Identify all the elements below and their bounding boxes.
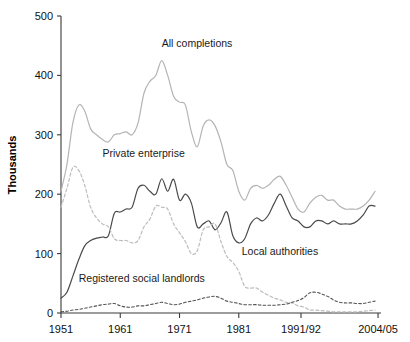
registered-social-landlords-label: Registered social landlords xyxy=(79,272,205,284)
line-chart-svg: 0100200300400500 19511961197119811991/92… xyxy=(0,0,410,342)
y-tick-label: 500 xyxy=(35,10,53,22)
series-line-registered-social-landlords xyxy=(61,292,375,312)
x-tick-label: 1961 xyxy=(108,323,132,335)
y-axis-title: Thousands xyxy=(6,136,18,195)
series-line-local-authorities xyxy=(61,166,375,312)
y-tick-label: 100 xyxy=(35,248,53,260)
y-axis-ticks: 0100200300400500 xyxy=(35,10,61,319)
y-tick-label: 400 xyxy=(35,69,53,81)
x-tick-label: 1981 xyxy=(227,323,251,335)
series-annotations: All completionsPrivate enterpriseLocal a… xyxy=(79,37,318,284)
series-line-all-completions xyxy=(61,61,375,213)
x-tick-label: 1971 xyxy=(167,323,191,335)
x-tick-label: 1951 xyxy=(49,323,73,335)
y-tick-label: 300 xyxy=(35,129,53,141)
y-tick-label: 0 xyxy=(47,307,53,319)
x-tick-label: 2004/05 xyxy=(358,323,398,335)
chart-root: 0100200300400500 19511961197119811991/92… xyxy=(0,0,410,342)
axis-lines xyxy=(61,16,381,313)
y-tick-label: 200 xyxy=(35,188,53,200)
local-authorities-label: Local authorities xyxy=(242,245,318,257)
x-tick-label: 1991/92 xyxy=(281,323,321,335)
x-axis-ticks: 19511961197119811991/922004/05 xyxy=(49,313,398,335)
all-completions-label: All completions xyxy=(162,37,233,49)
private-enterprise-label: Private enterprise xyxy=(102,147,184,159)
